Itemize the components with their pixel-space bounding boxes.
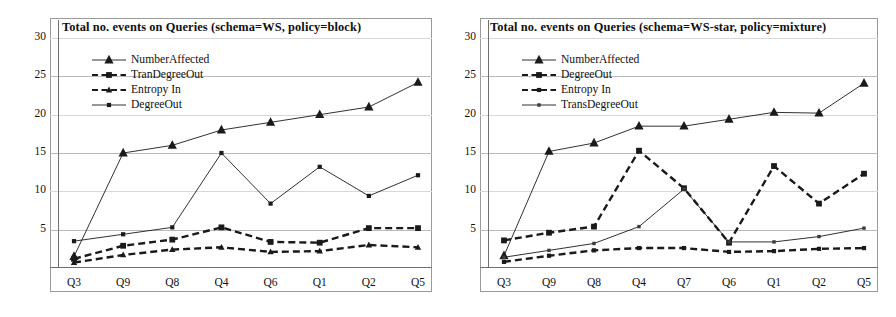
data-point-marker xyxy=(817,235,820,238)
data-point-marker xyxy=(859,78,868,87)
chart-panel-right: Total no. events on Queries (schema=WS-s… xyxy=(448,0,896,317)
data-point-marker xyxy=(772,249,776,253)
x-axis-tick-label: Q3 xyxy=(484,276,524,288)
data-point-marker xyxy=(536,72,542,78)
data-point-marker xyxy=(169,237,175,243)
data-point-marker xyxy=(104,54,113,63)
y-axis-tick-label: 10 xyxy=(22,183,46,195)
legend-item: Entropy In xyxy=(92,82,209,97)
legend-marker-icon xyxy=(92,69,126,81)
y-axis-tick-label: 15 xyxy=(22,145,46,157)
data-point-marker xyxy=(415,225,421,231)
data-point-marker xyxy=(637,246,641,250)
x-axis-tick-label: Q9 xyxy=(529,276,569,288)
data-point-marker xyxy=(317,240,323,246)
data-point-marker xyxy=(591,224,597,230)
legend-item: Entropy In xyxy=(522,82,639,97)
legend-item: NumberAffected xyxy=(92,52,209,67)
x-axis-tick-label: Q6 xyxy=(251,276,291,288)
legend-item: TranDegreeOut xyxy=(92,67,209,82)
data-point-marker xyxy=(537,103,540,106)
x-axis-tick-label: Q4 xyxy=(619,276,659,288)
y-axis-tick-label: 20 xyxy=(22,107,46,119)
data-point-marker xyxy=(592,248,596,252)
y-axis-tick-label: 25 xyxy=(452,68,476,80)
data-point-marker xyxy=(413,77,422,86)
data-point-marker xyxy=(769,107,778,116)
legend-marker-icon xyxy=(522,84,556,96)
data-point-marker xyxy=(268,239,274,245)
x-axis-tick-label: Q5 xyxy=(398,276,438,288)
legend-right: NumberAffectedDegreeOutEntropy InTransDe… xyxy=(522,52,639,112)
data-point-marker xyxy=(120,243,126,249)
legend-marker-icon xyxy=(92,84,126,96)
series-line xyxy=(504,151,864,243)
data-point-marker xyxy=(637,225,640,228)
legend-label: NumberAffected xyxy=(131,53,209,66)
data-point-marker xyxy=(727,250,731,254)
legend-marker-icon xyxy=(92,54,126,66)
data-point-marker xyxy=(366,225,372,231)
data-point-marker xyxy=(364,102,373,111)
legend-label: TranDegreeOut xyxy=(131,68,203,81)
y-axis-tick-label: 30 xyxy=(452,30,476,42)
x-axis-tick-label: Q6 xyxy=(709,276,749,288)
legend-marker-icon xyxy=(92,99,126,111)
data-point-marker xyxy=(861,171,867,177)
data-point-marker xyxy=(534,54,543,63)
data-point-marker xyxy=(219,151,223,155)
data-point-marker xyxy=(107,102,111,106)
legend-marker-icon xyxy=(522,99,556,111)
legend-item: TransDegreeOut xyxy=(522,97,639,112)
x-axis-tick-label: Q2 xyxy=(349,276,389,288)
data-point-marker xyxy=(170,225,174,229)
chart-panel-left: Total no. events on Queries (schema=WS, … xyxy=(0,0,448,317)
legend-label: NumberAffected xyxy=(561,53,639,66)
figure-row: Total no. events on Queries (schema=WS, … xyxy=(0,0,896,317)
data-point-marker xyxy=(634,121,643,130)
legend-marker-icon xyxy=(522,54,556,66)
data-point-marker xyxy=(636,148,642,154)
data-point-marker xyxy=(547,249,550,252)
data-point-marker xyxy=(862,246,866,250)
chart-title-left: Total no. events on Queries (schema=WS, … xyxy=(62,20,361,35)
data-point-marker xyxy=(546,230,552,236)
data-point-marker xyxy=(817,247,821,251)
data-point-marker xyxy=(814,108,823,117)
x-axis-tick-label: Q2 xyxy=(799,276,839,288)
y-axis-tick-label: 20 xyxy=(452,107,476,119)
legend-label: TransDegreeOut xyxy=(561,98,638,111)
legend-item: NumberAffected xyxy=(522,52,639,67)
legend-marker-icon xyxy=(522,69,556,81)
y-axis-tick-label: 10 xyxy=(452,183,476,195)
data-point-marker xyxy=(772,240,775,243)
data-point-marker xyxy=(318,165,322,169)
legend-left: NumberAffectedTranDegreeOutEntropy InDeg… xyxy=(92,52,209,112)
chart-title-right: Total no. events on Queries (schema=WS-s… xyxy=(490,20,826,35)
legend-label: DegreeOut xyxy=(131,98,182,111)
data-point-marker xyxy=(106,72,112,78)
y-axis-tick-label: 5 xyxy=(452,222,476,234)
data-point-marker xyxy=(682,187,685,190)
data-point-marker xyxy=(268,202,272,206)
legend-item: DegreeOut xyxy=(522,67,639,82)
data-point-marker xyxy=(72,239,76,243)
data-point-marker xyxy=(816,201,822,207)
data-point-marker xyxy=(502,256,505,259)
y-axis-tick-label: 15 xyxy=(452,145,476,157)
legend-label: Entropy In xyxy=(131,83,181,96)
data-point-marker xyxy=(682,246,686,250)
data-point-marker xyxy=(547,254,551,258)
y-axis-tick-label: 5 xyxy=(22,222,46,234)
legend-item: DegreeOut xyxy=(92,97,209,112)
x-axis-tick-label: Q8 xyxy=(152,276,192,288)
data-point-marker xyxy=(727,240,730,243)
data-point-marker xyxy=(502,260,506,264)
x-axis-tick-label: Q1 xyxy=(300,276,340,288)
data-point-marker xyxy=(537,87,541,91)
x-axis-tick-label: Q5 xyxy=(844,276,884,288)
legend-label: DegreeOut xyxy=(561,68,612,81)
x-axis-tick-label: Q8 xyxy=(574,276,614,288)
data-point-marker xyxy=(121,232,125,236)
data-point-marker xyxy=(219,224,225,230)
